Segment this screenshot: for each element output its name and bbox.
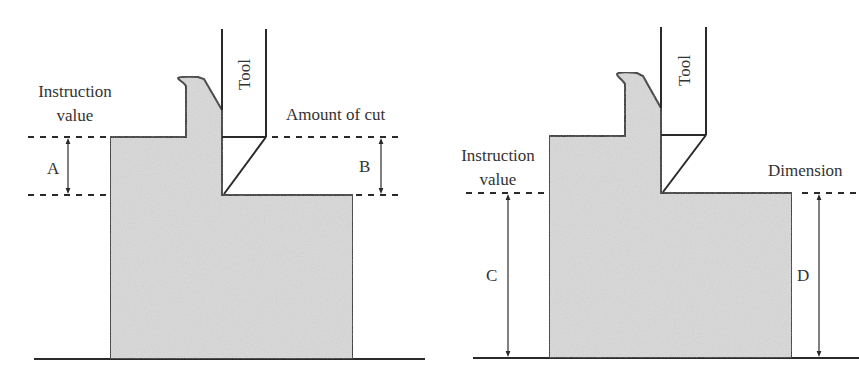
machining-diagram: Tool Instruction value Amount of cut A B…	[0, 0, 859, 384]
left-diagram: Tool Instruction value Amount of cut A B	[28, 29, 425, 359]
dim-b-label: B	[359, 157, 370, 176]
dim-d-label: D	[797, 266, 809, 285]
cutting-tool	[222, 29, 266, 194]
instruction-label-line1: Instruction	[38, 82, 112, 101]
right-diagram: Tool Instruction value Dimension C D	[461, 27, 859, 358]
instruction-label-line1: Instruction	[461, 146, 535, 165]
tool-label: Tool	[235, 59, 254, 90]
instruction-label-line2: value	[480, 170, 517, 189]
tool-label: Tool	[675, 55, 694, 86]
dim-c-label: C	[486, 266, 497, 285]
instruction-label-line2: value	[57, 106, 94, 125]
cutting-tool	[661, 27, 706, 192]
amount-of-cut-label: Amount of cut	[286, 105, 385, 124]
dimension-label: Dimension	[768, 161, 843, 180]
dim-a-label: A	[47, 159, 60, 178]
workpiece	[549, 72, 792, 358]
